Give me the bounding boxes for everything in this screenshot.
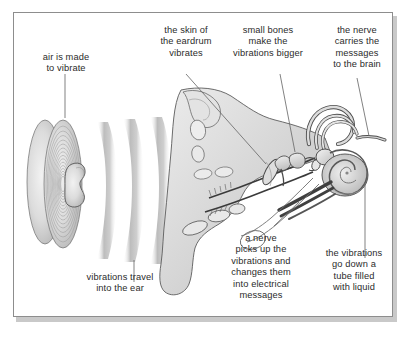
label-nerve-carries-messages-to-brain: the nerve carries the messages to the br…: [318, 25, 396, 71]
label-air-is-made-to-vibrate: air is made to vibrate: [20, 52, 112, 75]
label-vibrations-go-down-tube-filled-with-liquid: the vibrations go down a tube filled wit…: [314, 248, 394, 294]
leader-nerve-brain: [357, 78, 369, 136]
label-vibrations-travel-into-the-ear: vibrations travel into the ear: [66, 272, 174, 295]
loudspeaker-cone: [27, 120, 85, 248]
ear-diagram: air is made to vibrate the skin of the e…: [0, 0, 409, 338]
label-skin-of-the-eardrum-vibrates: the skin of the eardrum vibrates: [148, 25, 224, 59]
label-nerve-picks-up-vibrations: a nerve picks up the vibrations and chan…: [216, 233, 306, 301]
label-small-bones-make-vibrations-bigger: small bones make the vibrations bigger: [226, 25, 310, 59]
